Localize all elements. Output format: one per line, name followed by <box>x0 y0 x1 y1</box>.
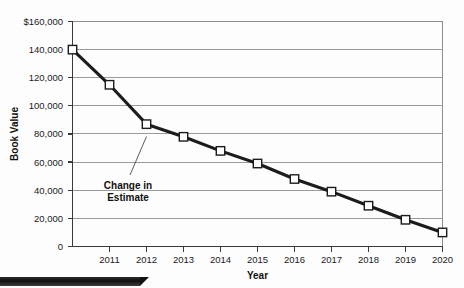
x-tick-label-2015: 2015 <box>247 254 268 265</box>
data-point-2018 <box>364 202 372 210</box>
y-tick-label-140000: 140,000 <box>29 44 63 55</box>
x-tick-label-2017: 2017 <box>321 254 342 265</box>
data-point-2014 <box>216 147 224 155</box>
x-tick-label-2014: 2014 <box>210 254 231 265</box>
x-tick-label-2020: 2020 <box>432 254 453 265</box>
y-tick-label-100000: 100,000 <box>29 100 63 111</box>
x-axis-title: Year <box>247 270 268 281</box>
y-tick-label-0: 0 <box>58 241 63 252</box>
page-edge-scan-artifact <box>0 277 140 286</box>
x-axis-tickmarks <box>110 247 443 252</box>
book-value-line-chart: $160,000 140,000 120,000 100,000 80,000 … <box>0 0 464 288</box>
y-tick-label-40000: 40,000 <box>34 185 63 196</box>
data-point-2013 <box>179 133 187 141</box>
y-tick-label-60000: 60,000 <box>34 157 63 168</box>
y-tick-label-120000: 120,000 <box>29 72 63 83</box>
y-axis-tickmarks <box>68 22 73 247</box>
x-tick-label-2013: 2013 <box>173 254 194 265</box>
data-point-2011 <box>105 81 113 89</box>
change-in-estimate-label-line1: Change in <box>104 180 152 191</box>
change-in-estimate-label-line2: Estimate <box>107 192 149 203</box>
data-point-2012 <box>142 120 150 128</box>
y-tick-label-80000: 80,000 <box>34 128 63 139</box>
chart-canvas: $160,000 140,000 120,000 100,000 80,000 … <box>0 0 464 288</box>
y-axis-tick-labels: $160,000 140,000 120,000 100,000 80,000 … <box>23 16 63 252</box>
data-point-2019 <box>401 216 409 224</box>
y-tick-label-20000: 20,000 <box>34 213 63 224</box>
x-tick-label-2011: 2011 <box>99 254 119 265</box>
x-tick-label-2012: 2012 <box>136 254 157 265</box>
data-point-2017 <box>327 187 335 195</box>
data-point-2010 <box>68 45 76 53</box>
x-tick-label-2018: 2018 <box>358 254 379 265</box>
data-point-2015 <box>253 159 261 167</box>
y-axis-title: Book Value <box>9 107 20 161</box>
data-point-2016 <box>290 175 298 183</box>
x-tick-label-2019: 2019 <box>395 254 416 265</box>
x-axis-tick-labels: 2011 2012 2013 2014 2015 2016 2017 2018 … <box>99 254 453 265</box>
x-tick-label-2016: 2016 <box>284 254 305 265</box>
y-tick-label-160000: $160,000 <box>23 16 63 27</box>
data-point-2020 <box>438 228 446 236</box>
